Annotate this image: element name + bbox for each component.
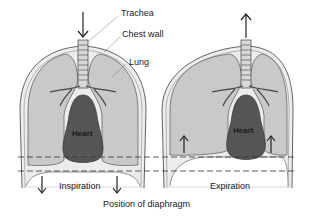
diaphragm-position-label: Position of diaphragm <box>103 200 190 209</box>
expiration-label: Expiration <box>210 182 250 191</box>
expiration-panel <box>162 14 293 188</box>
heart-label-right: Heart <box>233 127 253 135</box>
inspiration-label: Inspiration <box>59 182 101 191</box>
trachea-left <box>78 40 88 88</box>
airflow-out-arrow-icon <box>241 14 251 38</box>
heart-label-left: Heart <box>72 130 92 138</box>
chest-wall-leader <box>104 37 120 52</box>
trachea-right <box>241 40 251 88</box>
lung-label: Lung <box>129 58 149 67</box>
chest-wall-label: Chest wall <box>122 30 164 39</box>
airflow-in-arrow-icon <box>78 12 88 37</box>
trachea-leader <box>88 16 118 42</box>
trachea-label: Trachea <box>121 9 154 18</box>
inspiration-panel <box>20 12 146 193</box>
